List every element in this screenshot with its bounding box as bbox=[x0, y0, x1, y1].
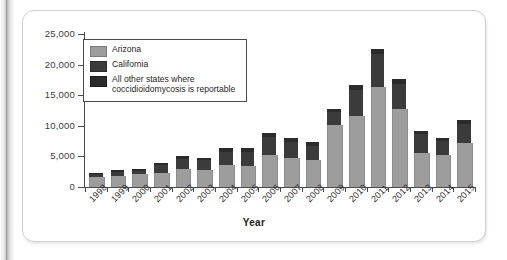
bar-segment-other-states[interactable] bbox=[241, 148, 254, 151]
y-axis-tick bbox=[78, 34, 84, 35]
bar-segment-california[interactable] bbox=[111, 172, 124, 176]
bar-segment-other-states[interactable] bbox=[414, 131, 427, 135]
bar-segment-other-states[interactable] bbox=[132, 169, 145, 171]
california-swatch bbox=[90, 61, 107, 72]
bar-stack[interactable] bbox=[436, 34, 449, 187]
bar-segment-arizona[interactable] bbox=[349, 116, 364, 187]
bar-segment-other-states[interactable] bbox=[327, 109, 340, 113]
legend-label-california: California bbox=[112, 60, 148, 70]
bar-segment-other-states[interactable] bbox=[197, 158, 210, 160]
bar-segment-other-states[interactable] bbox=[436, 138, 449, 141]
bar-segment-arizona[interactable] bbox=[392, 109, 407, 187]
bar-segment-other-states[interactable] bbox=[457, 120, 470, 124]
y-axis-tick bbox=[78, 126, 84, 127]
y-axis-tick-label: 5,000 bbox=[23, 150, 75, 162]
bar-segment-california[interactable] bbox=[219, 152, 232, 165]
y-axis-tick-label-text: 5,000 bbox=[29, 150, 75, 161]
bar-segment-other-states[interactable] bbox=[306, 142, 319, 146]
y-axis-tick-label: 10,000 bbox=[23, 120, 75, 132]
bar-stack[interactable] bbox=[262, 34, 275, 187]
bar-segment-california[interactable] bbox=[306, 146, 319, 160]
bar-segment-other-states[interactable] bbox=[111, 170, 124, 172]
figure-page: 05,00010,00015,00020,00025,000 199819992… bbox=[0, 0, 507, 260]
bar-segment-other-states[interactable] bbox=[392, 79, 405, 83]
bar-segment-california[interactable] bbox=[457, 124, 470, 143]
bar-segment-california[interactable] bbox=[436, 141, 449, 154]
x-axis-tick bbox=[85, 188, 86, 192]
bar-stack[interactable] bbox=[349, 34, 362, 187]
legend-label-arizona: Arizona bbox=[112, 45, 141, 55]
bar-segment-other-states[interactable] bbox=[262, 133, 275, 137]
bar-stack[interactable] bbox=[327, 34, 340, 187]
bar-stack[interactable] bbox=[457, 34, 470, 187]
binding-line bbox=[6, 0, 7, 260]
bar-segment-california[interactable] bbox=[176, 159, 189, 169]
y-axis-tick bbox=[78, 156, 84, 157]
chart-card: 05,00010,00015,00020,00025,000 199819992… bbox=[22, 10, 486, 242]
y-axis-tick-label-text: 20,000 bbox=[29, 59, 75, 70]
bar-stack[interactable] bbox=[371, 34, 384, 187]
y-axis-tick bbox=[78, 187, 84, 188]
bar-segment-california[interactable] bbox=[284, 142, 297, 159]
bar-segment-other-states[interactable] bbox=[176, 156, 189, 158]
bar-stack[interactable] bbox=[392, 34, 405, 187]
bar-segment-california[interactable] bbox=[154, 165, 167, 173]
chart-legend: Arizona California All other states wher… bbox=[83, 39, 247, 102]
bar-segment-arizona[interactable] bbox=[371, 87, 386, 187]
x-axis-title: Year bbox=[23, 217, 485, 228]
y-axis-tick-label-text: 10,000 bbox=[29, 120, 75, 131]
bar-segment-other-states[interactable] bbox=[371, 49, 384, 54]
bar-segment-california[interactable] bbox=[392, 84, 405, 110]
y-axis-tick-label: 20,000 bbox=[23, 59, 75, 71]
page-binding-gutter bbox=[0, 0, 14, 260]
bar-segment-california[interactable] bbox=[262, 137, 275, 155]
legend-item-arizona: Arizona bbox=[90, 45, 240, 57]
bar-segment-other-states[interactable] bbox=[284, 138, 297, 142]
bar-segment-california[interactable] bbox=[241, 152, 254, 167]
y-axis-tick-label-text: 25,000 bbox=[29, 28, 75, 39]
y-axis-tick-label-text: 0 bbox=[29, 181, 75, 192]
bar-segment-other-states[interactable] bbox=[89, 173, 102, 174]
bar-stack[interactable] bbox=[414, 34, 427, 187]
y-axis-tick-label-text: 15,000 bbox=[29, 89, 75, 100]
legend-label-other-states-line1: All other states where bbox=[112, 74, 195, 84]
bar-segment-california[interactable] bbox=[327, 112, 340, 125]
legend-label-other-states: All other states where coccidioidomycosi… bbox=[112, 75, 235, 95]
bar-segment-california[interactable] bbox=[371, 54, 384, 87]
y-axis-tick-label: 0 bbox=[23, 181, 75, 193]
bar-segment-california[interactable] bbox=[414, 134, 427, 152]
bar-segment-other-states[interactable] bbox=[349, 85, 362, 90]
chart-plot-area: 05,00010,00015,00020,00025,000 199819992… bbox=[23, 11, 485, 241]
bar-segment-arizona[interactable] bbox=[457, 143, 472, 187]
legend-item-other-states: All other states where coccidioidomycosi… bbox=[90, 75, 240, 95]
y-axis-tick-label: 25,000 bbox=[23, 28, 75, 40]
bar-segment-california[interactable] bbox=[132, 171, 145, 174]
bar-stack[interactable] bbox=[284, 34, 297, 187]
legend-item-california: California bbox=[90, 60, 240, 72]
bar-segment-other-states[interactable] bbox=[154, 163, 167, 165]
bar-segment-california[interactable] bbox=[197, 160, 210, 170]
legend-label-other-states-line2: coccidioidomycosis is reportable bbox=[112, 85, 235, 95]
bar-segment-other-states[interactable] bbox=[219, 148, 232, 151]
arizona-swatch bbox=[90, 46, 107, 57]
other-states-swatch bbox=[90, 76, 107, 87]
y-axis-tick-label: 15,000 bbox=[23, 89, 75, 101]
bar-segment-arizona[interactable] bbox=[327, 125, 342, 187]
bar-stack[interactable] bbox=[306, 34, 319, 187]
bar-segment-california[interactable] bbox=[89, 174, 102, 177]
bar-segment-california[interactable] bbox=[349, 90, 362, 116]
